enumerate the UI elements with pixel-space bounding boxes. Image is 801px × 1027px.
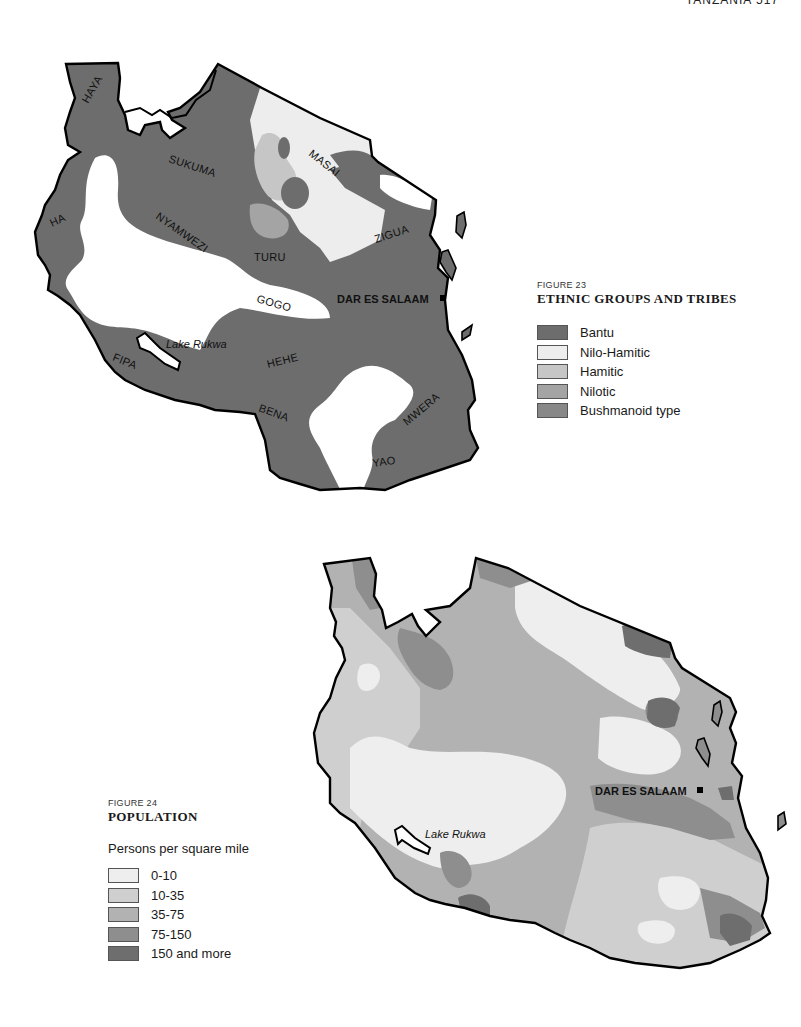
legend-swatch (108, 888, 139, 903)
label-turu: TURU (254, 251, 286, 263)
label-dar-es-salaam: DAR ES SALAAM (595, 785, 687, 797)
region-bantu (281, 177, 309, 209)
legend-item: 0-10 (108, 866, 249, 886)
legend-item: Nilo-Hamitic (537, 343, 737, 363)
label-dar-es-salaam: DAR ES SALAAM (337, 293, 429, 305)
figure23-title: ETHNIC GROUPS AND TRIBES (537, 291, 737, 307)
label-lake-rukwa: Lake Rukwa (425, 828, 486, 840)
legend-swatch (108, 907, 139, 922)
legend-swatch (108, 868, 139, 883)
region-150-plus (647, 697, 680, 727)
legend-item: 150 and more (108, 944, 249, 964)
legend-swatch (537, 403, 568, 418)
legend-label: 0-10 (151, 868, 177, 883)
legend-item: Bushmanoid type (537, 401, 737, 421)
label-lake-rukwa: Lake Rukwa (166, 338, 227, 350)
figure24-subtitle: Persons per square mile (108, 841, 249, 856)
legend-label: 75-150 (151, 927, 191, 942)
legend-swatch (108, 946, 139, 961)
figure24-title: POPULATION (108, 809, 249, 825)
legend-label: 10-35 (151, 888, 184, 903)
figure24-legend-list: 0-1010-3535-7575-150150 and more (108, 866, 249, 964)
legend-label: Nilotic (580, 384, 615, 399)
legend-swatch (537, 384, 568, 399)
ethnic-groups-map: HAYA SUKUMA MASAI HA NYAMWEZI TURU ZIGUA… (0, 0, 520, 500)
legend-item: 35-75 (108, 905, 249, 925)
legend-item: 10-35 (108, 886, 249, 906)
legend-label: Hamitic (580, 364, 623, 379)
legend-swatch (537, 325, 568, 340)
legend-swatch (537, 345, 568, 360)
legend-label: Nilo-Hamitic (580, 345, 650, 360)
figure23-legend-list: BantuNilo-HamiticHamiticNiloticBushmanoi… (537, 323, 737, 421)
legend-label: Bantu (580, 325, 614, 340)
legend-item: Nilotic (537, 382, 737, 402)
figure23-number: FIGURE 23 (537, 280, 737, 290)
island-pemba (456, 212, 466, 238)
legend-swatch (108, 927, 139, 942)
figure23-legend: FIGURE 23 ETHNIC GROUPS AND TRIBES Bantu… (537, 280, 737, 421)
population-map: Lake Rukwa DAR ES SALAAM (290, 548, 790, 1018)
city-marker-icon (440, 295, 446, 301)
legend-label: Bushmanoid type (580, 403, 680, 418)
island-mafia (778, 812, 786, 830)
legend-label: 35-75 (151, 907, 184, 922)
figure24-number: FIGURE 24 (108, 798, 249, 808)
city-marker-icon (697, 787, 703, 793)
legend-item: 75-150 (108, 925, 249, 945)
figure24-legend: FIGURE 24 POPULATION Persons per square … (108, 798, 249, 964)
legend-item: Hamitic (537, 362, 737, 382)
legend-swatch (537, 364, 568, 379)
region-bantu (278, 137, 290, 159)
legend-label: 150 and more (151, 946, 231, 961)
legend-item: Bantu (537, 323, 737, 343)
island-mafia (462, 325, 472, 340)
page-header: TANZANIA 517 (686, 0, 779, 7)
